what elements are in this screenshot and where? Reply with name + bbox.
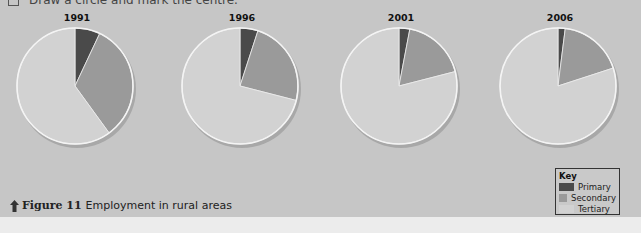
up-arrow-icon: [10, 200, 19, 212]
pie-graphic: [177, 24, 307, 154]
figure-panel: Draw a circle and mark the centre. 1991 …: [0, 0, 641, 217]
legend-label: Secondary: [571, 193, 616, 203]
pie-chart-2001: 2001: [331, 12, 471, 154]
pie-chart-1996: 1996: [172, 12, 312, 154]
legend-label: Tertiary: [578, 204, 610, 214]
legend-item-secondary: Secondary: [559, 192, 616, 203]
pie-title: 2001: [331, 12, 471, 24]
step-number-box: [8, 0, 19, 6]
swatch-tertiary: [559, 205, 574, 213]
instruction-text: Draw a circle and mark the centre.: [8, 0, 238, 7]
instruction-label: Draw a circle and mark the centre.: [29, 0, 238, 7]
figure-number: Figure 11: [22, 199, 82, 212]
swatch-secondary: [559, 194, 567, 202]
legend-item-tertiary: Tertiary: [559, 203, 616, 214]
pie-title: 1991: [7, 12, 147, 24]
pie-graphic: [495, 24, 625, 154]
legend-title: Key: [559, 171, 616, 181]
legend-key: Key Primary Secondary Tertiary: [555, 168, 620, 215]
legend-label: Primary: [578, 182, 611, 192]
pie-title: 1996: [172, 12, 312, 24]
legend-item-primary: Primary: [559, 181, 616, 192]
caption-text: Employment in rural areas: [86, 199, 232, 212]
page-margin: [0, 217, 641, 233]
swatch-primary: [559, 183, 574, 191]
pie-chart-1991: 1991: [7, 12, 147, 154]
pie-graphic: [12, 24, 142, 154]
figure-caption: Figure 11 Employment in rural areas: [10, 199, 232, 212]
pie-title: 2006: [490, 12, 630, 24]
pie-chart-2006: 2006: [490, 12, 630, 154]
pie-graphic: [336, 24, 466, 154]
